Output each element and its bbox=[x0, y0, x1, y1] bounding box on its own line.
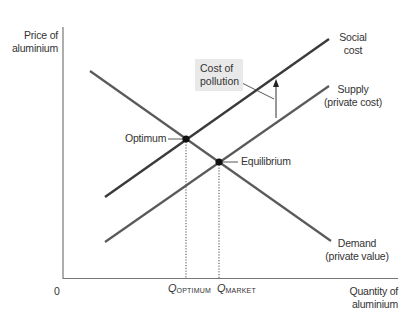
q-market-main: Q bbox=[217, 282, 226, 294]
social-cost-label-line1: Social bbox=[333, 31, 373, 44]
cost-of-pollution-box: Cost of pollution bbox=[195, 59, 243, 91]
annotation-line1: Cost of bbox=[200, 62, 238, 75]
y-axis-label: Price of aluminium bbox=[0, 29, 58, 55]
optimum-point bbox=[182, 135, 189, 142]
x-axis-label-line2: aluminium bbox=[330, 298, 398, 311]
optimum-label: Optimum bbox=[125, 132, 166, 145]
q-market-label: QMARKET bbox=[217, 282, 256, 294]
arrow-head-icon bbox=[273, 79, 279, 87]
origin-label: 0 bbox=[54, 285, 60, 298]
social-cost-label-line2: cost bbox=[333, 44, 373, 57]
supply-label: Supply (private cost) bbox=[318, 83, 388, 109]
social-cost-label: Social cost bbox=[333, 31, 373, 57]
q-market-sub: MARKET bbox=[226, 287, 256, 294]
q-optimum-sub: OPTIMUM bbox=[177, 287, 211, 294]
q-optimum-label: QOPTIMUM bbox=[168, 282, 211, 294]
equilibrium-point bbox=[215, 158, 222, 165]
demand-curve bbox=[90, 71, 331, 241]
x-axis-label: Quantity of aluminium bbox=[330, 285, 398, 311]
supply-label-line2: (private cost) bbox=[318, 96, 388, 109]
y-axis-label-line1: Price of bbox=[0, 29, 58, 42]
demand-label: Demand (private value) bbox=[323, 237, 391, 263]
equilibrium-label: Equilibrium bbox=[241, 155, 291, 168]
annotation-line2: pollution bbox=[200, 75, 238, 88]
demand-label-line1: Demand bbox=[323, 237, 391, 250]
y-axis-label-line2: aluminium bbox=[0, 42, 58, 55]
x-axis-label-line1: Quantity of bbox=[330, 285, 398, 298]
supply-label-line1: Supply bbox=[318, 83, 388, 96]
demand-label-line2: (private value) bbox=[323, 250, 391, 263]
q-optimum-main: Q bbox=[168, 282, 177, 294]
